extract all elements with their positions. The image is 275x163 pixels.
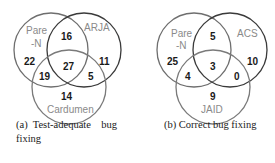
set-label-pare: Pare xyxy=(26,25,48,36)
region-right-bottom: 5 xyxy=(88,71,94,82)
set-label-cardumen: Cardumen xyxy=(47,104,94,115)
region-all: 27 xyxy=(63,61,75,72)
region-right-only-b: 10 xyxy=(247,56,259,67)
region-left-bottom: 19 xyxy=(39,71,51,82)
region-bottom-only-b: 9 xyxy=(210,91,216,102)
region-left-only-b: 25 xyxy=(167,56,179,67)
set-label-jaid: JAID xyxy=(201,104,223,115)
caption-a-line2: fixing xyxy=(16,132,126,146)
venn-a: Pare -N ARJA Cardumen 22 11 14 16 19 5 2… xyxy=(14,13,121,124)
region-right-bottom-b: 0 xyxy=(234,71,240,82)
set-label-arja: ARJA xyxy=(84,22,110,33)
circle-acs xyxy=(193,13,267,87)
region-right-only: 11 xyxy=(99,56,110,67)
venn-b: Pare -N ACS JAID 25 10 9 5 4 0 3 xyxy=(157,13,267,124)
set-label-acs: ACS xyxy=(237,28,258,39)
set-label-n: -N xyxy=(31,38,42,49)
set-label-pare-b: Pare xyxy=(171,28,193,39)
region-left-bottom-b: 4 xyxy=(185,71,191,82)
region-bottom-only: 14 xyxy=(61,91,73,102)
region-all-b: 3 xyxy=(210,61,216,72)
caption-b: (b) Correct bug fixing xyxy=(164,118,274,132)
region-left-right: 16 xyxy=(61,31,73,42)
region-left-only: 22 xyxy=(24,56,36,67)
set-label-n-b: -N xyxy=(176,40,187,51)
caption-a: (a) Test-adequate bug fixing xyxy=(16,118,126,146)
caption-a-line1: (a) Test-adequate bug xyxy=(16,118,126,132)
region-left-right-b: 5 xyxy=(210,31,216,42)
